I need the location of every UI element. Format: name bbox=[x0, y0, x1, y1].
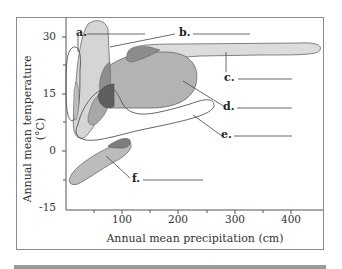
overlap-e-f bbox=[108, 138, 130, 148]
label-b: b. bbox=[179, 26, 191, 39]
x-tick-200: 200 bbox=[163, 213, 193, 225]
label-d: d. bbox=[223, 100, 235, 113]
bottom-divider-bar bbox=[14, 265, 326, 269]
y-axis-label: Annual mean temperature (°C) bbox=[21, 49, 47, 209]
label-e: e. bbox=[221, 128, 232, 141]
x-tick-400: 400 bbox=[276, 213, 306, 225]
x-tick-100: 100 bbox=[107, 213, 137, 225]
x-tick-300: 300 bbox=[220, 213, 250, 225]
label-c: c. bbox=[224, 71, 235, 84]
label-f: f. bbox=[132, 172, 140, 185]
x-axis-label: Annual mean precipitation (cm) bbox=[66, 232, 324, 245]
label-a: a. bbox=[76, 26, 87, 39]
y-tick-30: 30 bbox=[30, 30, 56, 42]
